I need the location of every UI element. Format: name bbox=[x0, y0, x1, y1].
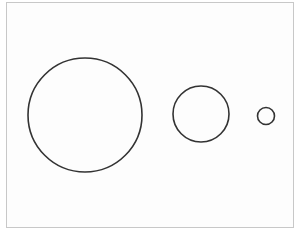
circles-diagram bbox=[0, 0, 297, 233]
small-circle bbox=[258, 108, 275, 125]
large-circle bbox=[28, 58, 142, 172]
medium-circle bbox=[173, 86, 229, 142]
